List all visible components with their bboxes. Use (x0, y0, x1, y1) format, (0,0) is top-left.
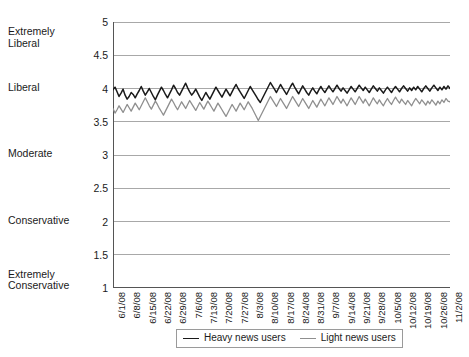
y-axis-tick-label: 3 (80, 150, 108, 161)
x-axis-tick-label: 9/21/08 (362, 256, 372, 290)
x-axis-tick-label: 8/24/08 (301, 256, 311, 290)
x-axis-tick-label: 10/19/08 (423, 251, 433, 290)
x-axis-tick-label: 6/22/08 (163, 256, 173, 290)
y-axis-tick-label: 4 (80, 84, 108, 95)
x-axis-tick-label: 11/2/08 (454, 257, 464, 290)
y-axis-tick-label: 4.5 (80, 50, 108, 61)
x-axis-tick-label-text: 11/2/08 (454, 290, 464, 323)
legend-entry: Light news users (300, 332, 396, 344)
x-axis-tick-label: 8/3/08 (255, 262, 265, 290)
plot-svg (113, 22, 450, 288)
legend-entry: Heavy news users (183, 332, 286, 344)
y-axis-tick-label: 5 (80, 17, 108, 28)
x-axis-tick-label: 7/20/08 (224, 256, 234, 290)
x-axis-tick-label-text: 10/12/08 (408, 290, 418, 329)
x-axis-tick-label-text: 7/13/08 (209, 290, 219, 324)
plot-area (113, 22, 450, 288)
x-axis-tick-label-text: 10/19/08 (423, 290, 433, 329)
x-axis-tick-label: 10/5/08 (393, 256, 403, 290)
x-axis-tick-label-text: 9/28/08 (377, 290, 387, 324)
x-axis-tick-label: 7/27/08 (240, 256, 250, 290)
x-axis-tick-label-text: 8/31/08 (316, 290, 326, 324)
x-axis-tick-label-text: 7/6/08 (194, 290, 204, 318)
x-axis-tick-label-text: 8/3/08 (255, 290, 265, 318)
x-axis-tick-label-text: 9/14/08 (347, 290, 357, 324)
x-axis-tick-label-text: 10/26/08 (439, 290, 449, 329)
legend-line-icon (183, 338, 199, 339)
x-axis-tick-label-text: 6/8/08 (132, 290, 142, 318)
x-axis-tick-label-text: 8/17/08 (286, 290, 296, 324)
y-axis-tick-label: 2 (80, 217, 108, 228)
x-axis-tick-label-text: 9/7/08 (331, 290, 341, 318)
x-axis-tick-label: 8/10/08 (270, 256, 280, 290)
x-axis-tick-label-text: 7/20/08 (224, 290, 234, 324)
x-axis-tick-label: 7/13/08 (209, 256, 219, 290)
x-axis-tick-label: 8/17/08 (286, 256, 296, 290)
x-axis-tick-label: 9/28/08 (377, 256, 387, 290)
x-axis-tick-label: 9/7/08 (331, 262, 341, 290)
x-axis-tick-label: 6/29/08 (178, 256, 188, 290)
y-axis-tick-label: 1 (80, 283, 108, 294)
series-line-light-news-users (113, 96, 450, 120)
x-axis-tick-label: 7/6/08 (194, 262, 204, 290)
y-axis-tick-label: 1.5 (80, 250, 108, 261)
x-axis-tick-label-text: 6/22/08 (163, 290, 173, 324)
x-axis-tick-label: 10/12/08 (408, 251, 418, 290)
x-axis-tick-label: 6/15/08 (148, 256, 158, 290)
x-axis-tick-label-text: 6/15/08 (148, 290, 158, 324)
x-axis-tick-label-text: 6/29/08 (178, 290, 188, 324)
legend-label: Light news users (321, 332, 396, 344)
legend-line-icon (300, 338, 316, 339)
x-axis-tick-label-text: 8/10/08 (270, 290, 280, 324)
gridlines (113, 22, 450, 288)
ideology-line-chart: Extremely LiberalLiberalModerateConserva… (0, 0, 469, 357)
x-axis-tick-label: 9/14/08 (347, 256, 357, 290)
x-axis-tick-label: 8/31/08 (316, 256, 326, 290)
y-axis-tick-labels: 11.522.533.544.55 (78, 0, 108, 300)
y-axis-tick-label: 3.5 (80, 117, 108, 128)
x-axis-tick-label-text: 10/5/08 (393, 290, 403, 324)
x-axis-tick-label-text: 9/21/08 (362, 290, 372, 324)
x-axis-tick-label: 10/26/08 (439, 251, 449, 290)
y-axis-tick-label: 2.5 (80, 183, 108, 194)
x-axis-tick-label: 6/1/08 (117, 262, 127, 290)
x-axis-tick-label-text: 6/1/08 (117, 290, 127, 318)
x-axis-tick-labels: 6/1/086/8/086/15/086/22/086/29/087/6/087… (113, 290, 450, 330)
x-axis-tick-label-text: 7/27/08 (240, 290, 250, 324)
x-axis-tick-label: 6/8/08 (132, 262, 142, 290)
legend-label: Heavy news users (204, 332, 286, 344)
x-axis-tick-label-text: 8/24/08 (301, 290, 311, 324)
chart-legend: Heavy news usersLight news users (176, 329, 403, 348)
